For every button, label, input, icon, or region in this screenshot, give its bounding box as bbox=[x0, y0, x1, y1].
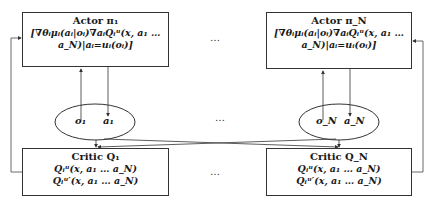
actor-gradient-line1: [∇θᵢμᵢ(aᵢ|oᵢ)∇aᵢQᵢᵘ(x, a₁ … bbox=[267, 27, 411, 39]
critic-q-target-line: Qᵢᵘ′(x, a₁ … a_N) bbox=[23, 175, 168, 187]
actor-title: Actor π_N bbox=[267, 15, 411, 27]
ellipsis-actors: … bbox=[210, 32, 221, 43]
ellipsis-critics: … bbox=[210, 166, 221, 177]
critic-box-n: Critic Q_N Qᵢᵘ(x, a₁ … a_N) Qᵢᵘ′(x, a₁ …… bbox=[266, 148, 412, 196]
actor-box-1: Actor π₁ [∇θᵢμᵢ(aᵢ|oᵢ)∇aᵢQᵢᵘ(x, a₁ … a_N… bbox=[22, 12, 169, 67]
feedback-arrow-1 bbox=[11, 38, 22, 172]
critic-title: Critic Q₁ bbox=[23, 151, 168, 163]
observation-label-n: o_N bbox=[316, 115, 337, 126]
actor-gradient-line2: a_N)|aᵢ=uᵢ(oᵢ)] bbox=[267, 39, 411, 51]
agent-ellipse-n bbox=[299, 104, 379, 140]
agent-ellipse-1 bbox=[55, 104, 135, 140]
ellipsis-agents: … bbox=[215, 112, 226, 123]
observation-label-1: o₁ bbox=[75, 115, 86, 126]
actor-box-n: Actor π_N [∇θᵢμᵢ(aᵢ|oᵢ)∇aᵢQᵢᵘ(x, a₁ … a_… bbox=[266, 12, 412, 69]
critic-q-line: Qᵢᵘ(x, a₁ … a_N) bbox=[23, 163, 168, 175]
actor-title: Actor π₁ bbox=[23, 15, 168, 27]
critic-title: Critic Q_N bbox=[267, 151, 411, 163]
critic-q-target-line: Qᵢᵘ′(x, a₁ … a_N) bbox=[267, 175, 411, 187]
critic-box-1: Critic Q₁ Qᵢᵘ(x, a₁ … a_N) Qᵢᵘ′(x, a₁ … … bbox=[22, 148, 169, 196]
critic-q-line: Qᵢᵘ(x, a₁ … a_N) bbox=[267, 163, 411, 175]
action-label-1: a₁ bbox=[103, 115, 114, 126]
feedback-arrow-n bbox=[412, 41, 423, 172]
action-label-n: a_N bbox=[344, 115, 365, 126]
actor-gradient-line2: a_N)|aᵢ=uᵢ(oᵢ)] bbox=[23, 39, 168, 51]
actor-gradient-line1: [∇θᵢμᵢ(aᵢ|oᵢ)∇aᵢQᵢᵘ(x, a₁ … bbox=[23, 27, 168, 39]
